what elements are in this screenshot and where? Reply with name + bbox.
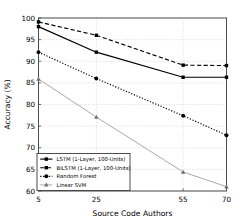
y-tick-label: 95 xyxy=(26,35,35,44)
data-point-marker xyxy=(181,63,184,66)
data-point-marker xyxy=(94,115,98,119)
data-point-marker xyxy=(94,77,98,81)
series-line xyxy=(39,52,227,135)
data-point-marker xyxy=(181,170,185,174)
x-tick-label: 5 xyxy=(36,195,41,204)
data-point-marker xyxy=(95,34,98,37)
series-line xyxy=(39,27,227,78)
series-line xyxy=(39,22,227,66)
legend-label: BiLSTM (1-Layer, 100-Units) xyxy=(57,165,131,172)
y-tick-label: 85 xyxy=(26,78,35,87)
series-2 xyxy=(37,50,229,137)
data-point-marker xyxy=(45,166,48,169)
y-tick-label: 90 xyxy=(26,57,36,66)
y-tick-label: 60 xyxy=(26,187,36,196)
data-point-marker xyxy=(225,133,229,137)
x-tick-label: 55 xyxy=(179,195,188,204)
legend-label: Linear SVM xyxy=(57,182,87,188)
data-point-marker xyxy=(44,174,48,178)
data-point-marker xyxy=(181,76,184,79)
x-tick-label: 25 xyxy=(92,195,101,204)
chart-canvas: 60657075808590951005255570Source Code Au… xyxy=(0,0,234,222)
accuracy-vs-authors-chart: 60657075808590951005255570Source Code Au… xyxy=(0,0,234,222)
chart-legend: LSTM (1-Layer, 100-Units)BiLSTM (1-Layer… xyxy=(37,154,131,191)
y-tick-label: 80 xyxy=(26,100,36,109)
data-point-marker xyxy=(181,114,185,118)
y-tick-label: 70 xyxy=(26,143,36,152)
data-point-marker xyxy=(45,157,48,160)
data-point-marker xyxy=(225,64,228,67)
series-1 xyxy=(37,20,228,67)
y-tick-label: 100 xyxy=(21,14,35,23)
x-axis-title: Source Code Authors xyxy=(93,209,173,218)
data-point-marker xyxy=(37,50,41,54)
x-tick-label: 70 xyxy=(222,195,232,204)
legend-label: Random Forest xyxy=(57,173,97,179)
legend-label: LSTM (1-Layer, 100-Units) xyxy=(57,156,126,163)
y-axis-title: Accuracy (%) xyxy=(3,79,12,129)
data-point-marker xyxy=(225,76,228,79)
data-point-marker xyxy=(36,77,40,81)
y-tick-label: 75 xyxy=(26,122,35,131)
data-point-marker xyxy=(37,20,40,23)
data-point-marker xyxy=(95,50,98,53)
y-tick-label: 65 xyxy=(26,165,35,174)
series-0 xyxy=(37,25,228,79)
data-point-marker xyxy=(37,25,40,28)
